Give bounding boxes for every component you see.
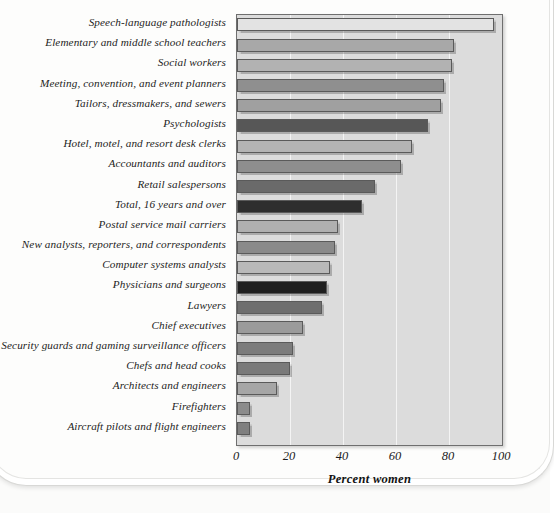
- bar: [237, 119, 428, 132]
- category-label: Hotel, motel, and resort desk clerks: [0, 133, 231, 153]
- bar-row: [237, 399, 502, 419]
- bar-row: [237, 237, 502, 257]
- bar: [237, 241, 335, 254]
- bar: [237, 200, 362, 213]
- bar: [237, 79, 444, 92]
- x-axis-title: Percent women: [236, 472, 503, 487]
- bar: [237, 281, 327, 294]
- x-tick-label: 80: [442, 449, 455, 464]
- bar: [237, 422, 250, 435]
- category-axis-labels: Speech-language pathologistsElementary a…: [0, 12, 231, 436]
- bar: [237, 261, 330, 274]
- category-label: Chefs and head cooks: [0, 355, 231, 375]
- category-label: Tailors, dressmakers, and sewers: [0, 93, 231, 113]
- category-label: Accountants and auditors: [0, 153, 231, 173]
- bar-row: [237, 76, 502, 96]
- bar-row: [237, 177, 502, 197]
- bar-row: [237, 156, 502, 176]
- category-label: Architects and engineers: [0, 375, 231, 395]
- bar: [237, 140, 412, 153]
- bar-row: [237, 55, 502, 75]
- bar-row: [237, 116, 502, 136]
- bar: [237, 342, 293, 355]
- bar: [237, 220, 338, 233]
- bar: [237, 362, 290, 375]
- category-label: Firefighters: [0, 396, 231, 416]
- bar: [237, 99, 441, 112]
- bar-row: [237, 318, 502, 338]
- bar-row: [237, 278, 502, 298]
- category-label: Postal service mail carriers: [0, 214, 231, 234]
- category-label: Chief executives: [0, 315, 231, 335]
- bar-row: [237, 197, 502, 217]
- bar-row: [237, 136, 502, 156]
- x-axis-ticks: 020406080100: [236, 449, 503, 467]
- bar-row: [237, 35, 502, 55]
- bar: [237, 180, 375, 193]
- x-tick-label: 0: [233, 449, 239, 464]
- category-label: Physicians and surgeons: [0, 274, 231, 294]
- category-label: Security guards and gaming surveillance …: [0, 335, 231, 355]
- bar: [237, 382, 277, 395]
- bar-row: [237, 358, 502, 378]
- bar: [237, 59, 452, 72]
- category-label: Computer systems analysts: [0, 254, 231, 274]
- bar-row: [237, 15, 502, 35]
- bar: [237, 39, 454, 52]
- x-tick-label: 20: [283, 449, 296, 464]
- bar-row: [237, 419, 502, 439]
- category-label: Lawyers: [0, 295, 231, 315]
- category-label: Total, 16 years and over: [0, 194, 231, 214]
- bar-row: [237, 96, 502, 116]
- bar-row: [237, 338, 502, 358]
- category-label: New analysts, reporters, and corresponde…: [0, 234, 231, 254]
- bar-row: [237, 217, 502, 237]
- bar: [237, 160, 401, 173]
- bar: [237, 402, 250, 415]
- bar: [237, 301, 322, 314]
- bar-row: [237, 257, 502, 277]
- category-label: Aircraft pilots and flight engineers: [0, 416, 231, 436]
- bar: [237, 18, 494, 31]
- category-label: Meeting, convention, and event planners: [0, 73, 231, 93]
- category-label: Psychologists: [0, 113, 231, 133]
- category-label: Social workers: [0, 52, 231, 72]
- category-label: Speech-language pathologists: [0, 12, 231, 32]
- category-label: Elementary and middle school teachers: [0, 32, 231, 52]
- x-tick-label: 40: [336, 449, 349, 464]
- plot-area: [236, 14, 503, 446]
- x-tick-label: 60: [389, 449, 402, 464]
- bar-row: [237, 298, 502, 318]
- x-tick-label: 100: [492, 449, 511, 464]
- bar-row: [237, 379, 502, 399]
- category-label: Retail salespersons: [0, 174, 231, 194]
- bar: [237, 321, 303, 334]
